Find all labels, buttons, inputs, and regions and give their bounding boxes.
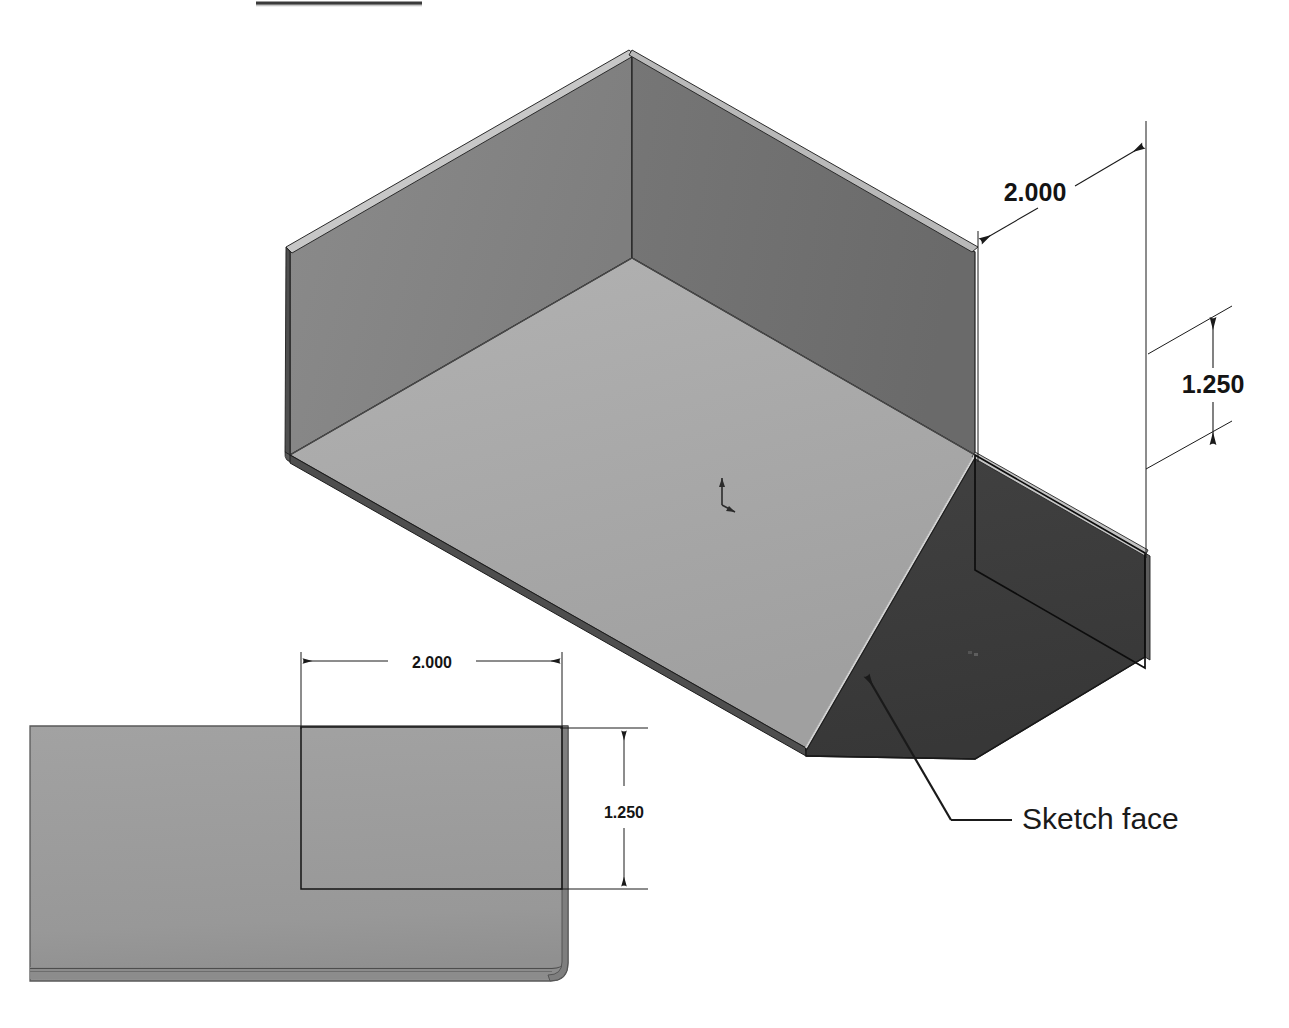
isometric-box-view: 2.000 1.250 Sketch face — [285, 50, 1244, 835]
flat-sheet-body — [30, 726, 568, 981]
dimension-flat-height: 1.250 — [560, 728, 648, 889]
dimension-flat-width: 2.000 — [301, 652, 562, 729]
dim-line-iso-width-a — [1075, 146, 1143, 186]
dimension-value-flat-width: 2.000 — [412, 654, 452, 671]
dimension-value-flat-height: 1.250 — [604, 804, 644, 821]
ext-line-iso-height-bottom — [1146, 421, 1232, 469]
flat-pattern-view: 2.000 1.250 — [30, 652, 648, 981]
technical-illustration: 2.000 1.250 Sketch face — [0, 0, 1289, 1028]
wall-left-thickness — [285, 247, 290, 455]
dimension-iso-height: 1.250 — [1146, 306, 1244, 469]
dimension-value-iso-width: 2.000 — [1004, 178, 1067, 206]
drawing-canvas: 2.000 1.250 Sketch face — [0, 0, 1289, 1028]
callout-label-sketch-face: Sketch face — [1022, 802, 1179, 835]
ext-line-iso-height-top — [1148, 306, 1232, 354]
cropped-page-rule — [256, 2, 422, 7]
dim-line-iso-width-b — [981, 208, 1038, 241]
dimension-value-iso-height: 1.250 — [1182, 370, 1245, 398]
